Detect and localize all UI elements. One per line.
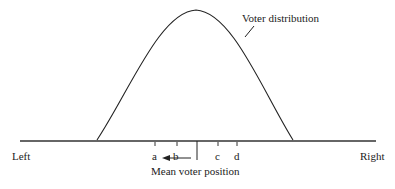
voter-distribution-curve (97, 10, 293, 140)
position-label-c: c (215, 150, 220, 162)
position-label-d: d (234, 150, 240, 162)
position-label-b: b (173, 150, 179, 162)
mean-voter-label: Mean voter position (151, 165, 240, 177)
axis-right-label: Right (360, 150, 384, 162)
arrow-left-icon (162, 155, 170, 161)
label-leader-line (245, 26, 254, 37)
position-label-a: a (152, 150, 157, 162)
curve-label: Voter distribution (242, 12, 319, 24)
axis-left-label: Left (12, 150, 30, 162)
diagram-canvas (0, 0, 395, 189)
